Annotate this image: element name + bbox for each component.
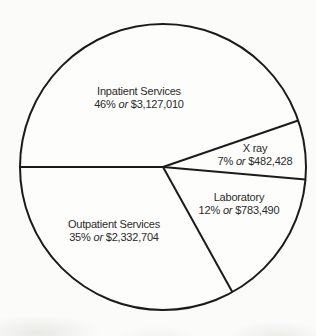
slice-percent: 46% bbox=[94, 97, 115, 109]
slice-value: 12% or $783,490 bbox=[199, 203, 280, 216]
slice-amount: $2,332,704 bbox=[106, 230, 159, 242]
slice-connector: or bbox=[236, 154, 245, 166]
slice-percent: 12% bbox=[199, 203, 220, 215]
slice-value: 46% or $3,127,010 bbox=[94, 97, 184, 110]
slice-label-x-ray: X ray 7% or $482,428 bbox=[218, 142, 293, 167]
slice-label-outpatient-services: Outpatient Services 35% or $2,332,704 bbox=[68, 218, 160, 243]
slice-connector: or bbox=[93, 230, 102, 242]
slice-name: Inpatient Services bbox=[94, 85, 184, 98]
slice-label-laboratory: Laboratory 12% or $783,490 bbox=[199, 191, 280, 216]
slice-value: 35% or $2,332,704 bbox=[68, 230, 160, 243]
slice-amount: $3,127,010 bbox=[131, 97, 184, 109]
slice-percent: 7% bbox=[218, 154, 234, 166]
slice-percent: 35% bbox=[69, 230, 90, 242]
slice-amount: $482,428 bbox=[248, 154, 292, 166]
slice-name: X ray bbox=[218, 142, 293, 155]
slice-value: 7% or $482,428 bbox=[218, 154, 293, 167]
slice-name: Outpatient Services bbox=[68, 218, 160, 231]
pie-chart-figure: Inpatient Services 46% or $3,127,010 X r… bbox=[0, 0, 316, 336]
slice-name: Laboratory bbox=[199, 191, 280, 204]
pie-chart bbox=[0, 0, 316, 336]
slice-connector: or bbox=[118, 97, 127, 109]
slice-amount: $783,490 bbox=[235, 203, 279, 215]
slice-label-inpatient-services: Inpatient Services 46% or $3,127,010 bbox=[94, 85, 184, 110]
slice-connector: or bbox=[223, 203, 232, 215]
